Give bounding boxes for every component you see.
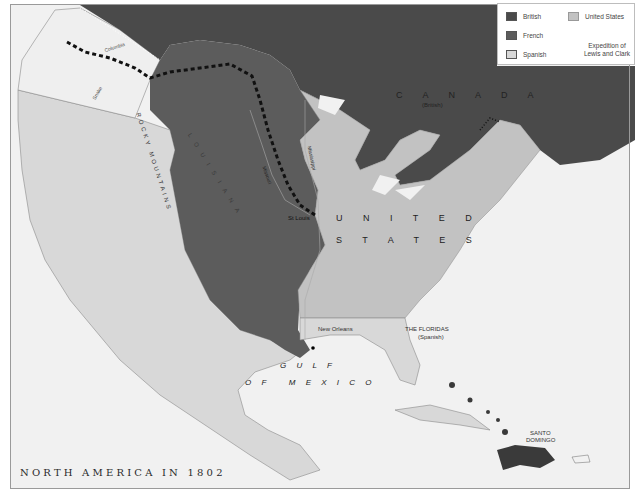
- british-swatch: [506, 12, 517, 21]
- label-domingo: DOMINGO: [526, 437, 555, 443]
- legend-item-british: British: [506, 12, 541, 21]
- label-states: S T A T E S: [336, 235, 481, 245]
- legend-expedition-label: Expedition of Lewis and Clark: [580, 42, 634, 58]
- label-new-orleans: New Orleans: [318, 326, 353, 332]
- label-canada-sub: (British): [422, 102, 443, 108]
- legend-item-united-states: United States: [568, 12, 624, 21]
- label-canada: C A N A D A: [396, 90, 543, 100]
- french-swatch: [506, 31, 517, 40]
- spanish-swatch: [506, 50, 517, 59]
- legend-item-french: French: [506, 31, 543, 40]
- label-floridas-sub: (Spanish): [418, 334, 444, 340]
- north-america-1802-map: [0, 0, 640, 503]
- legend-label: United States: [585, 13, 624, 20]
- label-santo: SANTO: [530, 430, 551, 436]
- new-orleans-marker: [311, 346, 315, 350]
- legend-item-spanish: Spanish: [506, 50, 547, 59]
- legend-label: Spanish: [523, 51, 547, 58]
- legend-label: British: [523, 13, 541, 20]
- label-st-louis: St Louis: [288, 215, 310, 221]
- label-of-mexico: O F M E X I C O: [245, 378, 376, 387]
- united-states-swatch: [568, 12, 579, 21]
- legend-label: French: [523, 32, 543, 39]
- label-floridas: THE FLORIDAS: [405, 326, 449, 332]
- label-gulf: G U L F: [280, 361, 336, 370]
- map-legend: British French Spanish United States Exp…: [497, 3, 635, 65]
- map-title: NORTH AMERICA IN 1802: [20, 467, 226, 478]
- label-united: U N I T E D: [336, 213, 481, 223]
